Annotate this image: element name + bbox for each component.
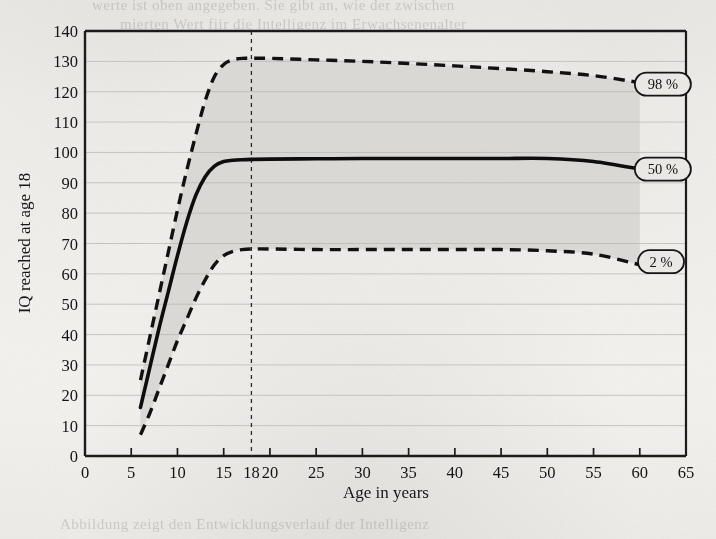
y-tick-label-40: 40 <box>62 326 79 345</box>
y-tick-label-70: 70 <box>62 235 79 254</box>
y-tick-label-30: 30 <box>62 356 79 375</box>
y-tick-label-10: 10 <box>62 417 79 436</box>
y-tick-label-20: 20 <box>62 386 79 405</box>
y-tick-label-50: 50 <box>62 295 79 314</box>
x-tick-label-50: 50 <box>539 463 556 482</box>
x-tick-label-25: 25 <box>308 463 325 482</box>
x-tick-label-60: 60 <box>632 463 649 482</box>
y-tick-label-120: 120 <box>53 83 78 102</box>
x-tick-label-18: 18 <box>243 463 260 482</box>
y-tick-label-0: 0 <box>70 447 78 466</box>
y-tick-label-130: 130 <box>53 52 78 71</box>
y-axis-tick-labels: 0102030405060708090100110120130140 <box>53 22 78 466</box>
x-tick-label-40: 40 <box>447 463 464 482</box>
y-tick-label-140: 140 <box>53 22 78 41</box>
y-tick-label-100: 100 <box>53 143 78 162</box>
badge-50: 50 % <box>635 158 691 181</box>
y-tick-label-90: 90 <box>62 174 79 193</box>
percentile-band-2-to-98 <box>140 58 639 435</box>
x-tick-label-20: 20 <box>262 463 279 482</box>
x-tick-label-5: 5 <box>127 463 135 482</box>
iq-percentile-chart: 0510151820253035404550556065 01020304050… <box>0 0 716 539</box>
x-tick-label-30: 30 <box>354 463 371 482</box>
badge-2-label: 2 % <box>650 254 673 270</box>
y-axis-title: IQ reached at age 18 <box>15 173 34 314</box>
x-tick-label-0: 0 <box>81 463 89 482</box>
x-tick-label-55: 55 <box>585 463 602 482</box>
x-tick-label-35: 35 <box>400 463 417 482</box>
x-axis-tick-labels: 0510151820253035404550556065 <box>81 463 694 482</box>
x-tick-label-15: 15 <box>215 463 232 482</box>
badge-50-label: 50 % <box>648 161 678 177</box>
y-tick-label-80: 80 <box>62 204 79 223</box>
x-axis-title: Age in years <box>343 483 429 502</box>
y-tick-label-60: 60 <box>62 265 79 284</box>
y-tick-label-110: 110 <box>54 113 78 132</box>
x-tick-label-10: 10 <box>169 463 186 482</box>
badge-98-label: 98 % <box>648 76 678 92</box>
x-tick-label-45: 45 <box>493 463 510 482</box>
badge-98: 98 % <box>635 73 691 96</box>
badge-2: 2 % <box>638 250 684 273</box>
percentile-band-group <box>140 58 639 435</box>
series-line-2-percent <box>140 249 639 435</box>
x-tick-label-65: 65 <box>678 463 695 482</box>
